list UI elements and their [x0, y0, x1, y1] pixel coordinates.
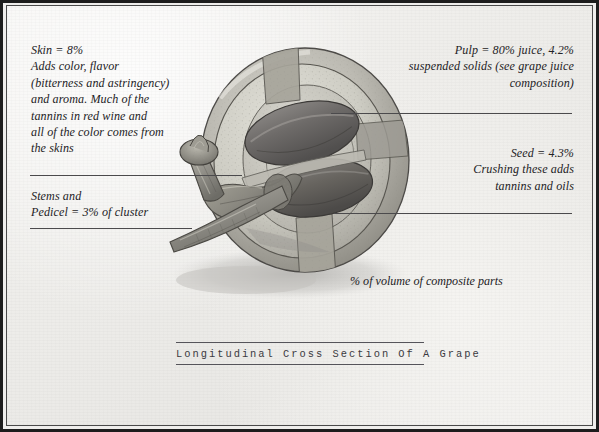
illustration-page: Skin = 8% Adds color, flavor (bitterness…	[0, 0, 599, 432]
leader-line-pulp	[331, 113, 572, 114]
annotation-stems-pedicel: Stems and Pedicel = 3% of cluster	[31, 188, 246, 221]
caption-title: Longitudinal Cross Section Of A Grape	[176, 343, 424, 364]
caption-rule-bottom	[176, 364, 424, 365]
annotation-seed: Seed = 4.3% Crushing these adds tannins …	[372, 145, 574, 194]
leader-line-seed	[334, 213, 572, 214]
caption-block: Longitudinal Cross Section Of A Grape	[176, 342, 424, 365]
leader-line-stems	[30, 228, 192, 229]
annotation-pulp: Pulp = 80% juice, 4.2% suspended solids …	[352, 42, 574, 91]
leader-line-skin	[30, 175, 242, 176]
annotation-skin: Skin = 8% Adds color, flavor (bitterness…	[31, 42, 246, 157]
annotation-volume-note: % of volume of composite parts	[350, 273, 580, 289]
